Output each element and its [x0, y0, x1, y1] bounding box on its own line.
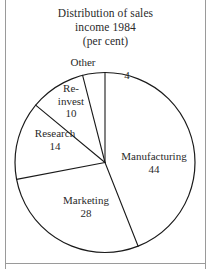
slice-label-manufacturing-value: 44: [110, 163, 198, 176]
slice-label-marketing-value: 28: [48, 207, 124, 220]
slice-label-reinvest-name-line-2: invest: [48, 95, 94, 108]
slice-label-manufacturing-name: Manufacturing: [110, 150, 198, 163]
slice-label-research-value: 14: [16, 140, 94, 153]
slice-label-manufacturing: Manufacturing 44: [110, 150, 198, 175]
slice-label-marketing: Marketing 28: [48, 194, 124, 219]
slice-label-research-name: Research: [16, 127, 94, 140]
slice-label-marketing-name: Marketing: [48, 194, 124, 207]
slice-label-reinvest-value: 10: [48, 107, 94, 120]
slice-label-other-name: Other: [48, 56, 118, 69]
slice-label-reinvest: Re- invest 10: [48, 82, 94, 120]
pie-chart-figure: Distribution of sales income 1984 (per c…: [0, 0, 212, 269]
slice-label-other: Other 4: [48, 56, 118, 69]
pie-slice-divider-research: [17, 163, 105, 180]
slice-label-reinvest-name-line-1: Re-: [48, 82, 94, 95]
slice-label-research: Research 14: [16, 127, 94, 152]
slice-label-other-value: 4: [120, 69, 134, 82]
